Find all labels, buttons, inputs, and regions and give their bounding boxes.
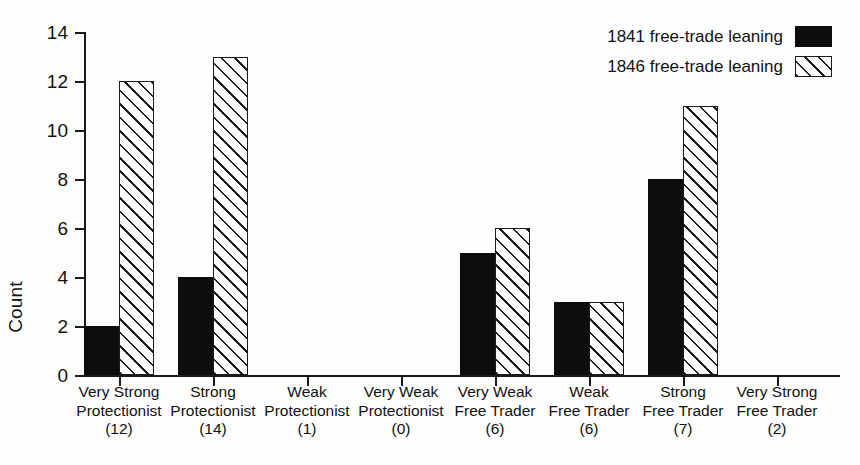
- y-axis-label: Count: [5, 275, 27, 339]
- y-axis-tick: 4: [75, 277, 84, 279]
- legend: 1841 free-trade leaning 1846 free-trade …: [607, 26, 832, 77]
- y-axis-tick: 14: [75, 32, 84, 34]
- y-axis-tick-label: 6: [57, 218, 68, 240]
- bar: [119, 81, 154, 375]
- bar: [648, 179, 683, 375]
- bar: [683, 106, 718, 376]
- bar: [495, 228, 530, 375]
- y-axis-tick-label: 12: [47, 71, 68, 93]
- bar: [554, 302, 589, 376]
- y-axis-tick: 12: [75, 81, 84, 83]
- y-axis-tick: 6: [75, 228, 84, 230]
- y-axis-tick-label: 10: [47, 120, 68, 142]
- bar: [460, 253, 495, 376]
- legend-item: 1846 free-trade leaning: [607, 56, 832, 77]
- y-axis-tick: 8: [75, 179, 84, 181]
- y-axis-tick-label: 4: [57, 267, 68, 289]
- x-axis-spine: [84, 375, 840, 377]
- legend-label: 1841 free-trade leaning: [607, 27, 783, 47]
- category-label-line: Free Trader: [722, 402, 832, 421]
- y-axis-tick-label: 8: [57, 169, 68, 191]
- bar: [589, 302, 624, 376]
- y-axis-spine: [84, 32, 86, 375]
- bar-chart: Count 02468101214 Very StrongProtectioni…: [0, 0, 860, 465]
- bar: [178, 277, 213, 375]
- y-axis-tick-label: 14: [47, 22, 68, 44]
- bar: [84, 326, 119, 375]
- legend-label: 1846 free-trade leaning: [607, 57, 783, 77]
- y-axis-tick: 2: [75, 326, 84, 328]
- y-axis-tick-label: 2: [57, 316, 68, 338]
- legend-item: 1841 free-trade leaning: [607, 26, 832, 47]
- bar: [213, 57, 248, 376]
- y-axis-tick: 10: [75, 130, 84, 132]
- category-label-line: (2): [722, 420, 832, 439]
- legend-swatch-solid-icon: [795, 26, 832, 47]
- plot-area: 02468101214: [84, 32, 840, 375]
- category-label-line: Very Strong: [722, 383, 832, 402]
- x-axis-category-label: Very StrongFree Trader(2): [722, 383, 832, 439]
- y-axis-tick: 0: [75, 375, 84, 377]
- legend-swatch-hatch-icon: [795, 56, 832, 77]
